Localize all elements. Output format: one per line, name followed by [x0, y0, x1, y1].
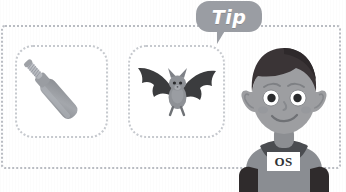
cricket-bat-icon: [15, 45, 108, 138]
illustration-scene: OS Tip: [0, 0, 346, 192]
tip-label: Tip: [196, 1, 262, 32]
tip-speech-bubble: Tip: [196, 1, 262, 45]
bat-animal-icon: [128, 45, 225, 138]
os-badge: OS: [267, 152, 300, 171]
